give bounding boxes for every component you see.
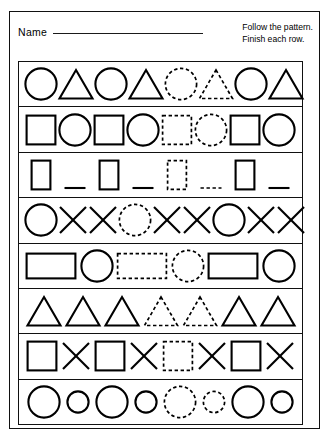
pattern-rows-container [18,61,303,425]
triangle-icon [58,68,94,100]
triangle-icon [260,295,296,327]
printed-shape-slot [262,107,296,151]
square-icon [230,340,262,372]
printed-shape-slot [260,289,296,333]
pattern-row [19,244,302,289]
printed-shape-slot [197,334,227,378]
printed-shape-slot [134,380,158,424]
circle-icon [118,203,152,237]
circle-icon [194,113,228,147]
printed-shape-slot [246,198,276,242]
circle-icon [126,113,160,147]
trace-shape-slot[interactable] [166,153,188,197]
circle-icon [262,113,296,147]
trace-shape-slot[interactable] [143,289,179,333]
trace-shape-slot[interactable] [199,153,223,197]
worksheet-page: Name Follow the pattern. Finish each row… [0,0,331,438]
trace-shape-slot[interactable] [171,244,205,288]
printed-shape-slot [24,62,58,106]
triangle-icon [198,68,234,100]
printed-shape-slot [94,62,128,106]
printed-shape-slot [63,153,87,197]
tall-rectangle-icon [234,159,256,191]
printed-shape-slot [262,244,296,288]
triangle-icon [268,68,304,100]
square-icon [26,340,58,372]
circle-icon [212,203,246,237]
square-icon [162,340,194,372]
x-icon [88,205,118,235]
circle-icon [80,249,114,283]
x-icon [246,205,276,235]
pattern-row [19,153,302,198]
pattern-row [19,107,302,152]
printed-shape-slot [25,107,57,151]
printed-shape-slot [61,334,91,378]
tall-rectangle-icon [98,159,120,191]
printed-shape-slot [66,380,90,424]
circle-icon [24,203,58,237]
trace-shape-slot[interactable] [182,289,218,333]
pattern-row [19,198,302,243]
trace-shape-slot[interactable] [163,380,197,424]
printed-shape-slot [26,334,58,378]
printed-shape-slot [126,107,160,151]
dash-icon [63,159,87,191]
x-icon [197,341,227,371]
printed-shape-slot [270,380,294,424]
square-icon [161,114,193,146]
trace-shape-slot[interactable] [164,62,198,106]
printed-shape-slot [27,380,61,424]
circle-small-icon [202,390,226,414]
triangle-icon [26,295,62,327]
circle-icon [24,67,58,101]
circle-icon [262,249,296,283]
triangle-icon [221,295,257,327]
tall-rectangle-icon [166,159,188,191]
dash-icon [199,159,223,191]
printed-shape-slot [65,289,101,333]
circle-big-icon [163,385,197,419]
triangle-icon [65,295,101,327]
circle-icon [234,67,268,101]
circle-big-icon [95,385,129,419]
printed-shape-slot [230,334,262,378]
printed-shape-slot [207,244,259,288]
printed-shape-slot [234,153,256,197]
trace-shape-slot[interactable] [202,380,226,424]
printed-shape-slot [80,244,114,288]
printed-shape-slot [212,198,246,242]
circle-icon [171,249,205,283]
printed-shape-slot [129,334,159,378]
printed-shape-slot [182,198,212,242]
pattern-row [19,380,302,424]
printed-shape-slot [221,289,257,333]
triangle-icon [182,295,218,327]
instruction-line-1: Follow the pattern. [242,22,313,34]
trace-shape-slot[interactable] [118,198,152,242]
trace-shape-slot[interactable] [194,107,228,151]
square-icon [93,114,125,146]
printed-shape-slot [234,62,268,106]
trace-shape-slot[interactable] [198,62,234,106]
instruction-line-2: Finish each row. [242,34,313,46]
printed-shape-slot [152,198,182,242]
pattern-row [19,334,302,379]
square-icon [25,114,57,146]
x-icon [152,205,182,235]
dash-icon [131,159,155,191]
square-icon [229,114,261,146]
x-icon [276,205,306,235]
printed-shape-slot [26,289,62,333]
tall-rectangle-icon [30,159,52,191]
trace-shape-slot[interactable] [161,107,193,151]
instructions-block: Follow the pattern. Finish each row. [242,20,313,46]
square-icon [94,340,126,372]
trace-shape-slot[interactable] [116,244,168,288]
name-write-line[interactable] [53,33,203,34]
dash-icon [267,159,291,191]
name-field-group: Name [18,20,203,38]
triangle-icon [128,68,164,100]
trace-shape-slot[interactable] [162,334,194,378]
wide-rectangle-icon [207,252,259,280]
